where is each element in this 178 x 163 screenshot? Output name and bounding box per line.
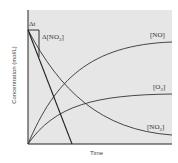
delta-no2-label: Δ[NO2] (42, 33, 64, 42)
x-axis-label: Time (90, 150, 103, 156)
o2-label: [O2] (153, 83, 165, 92)
no2-label: [NO2] (147, 123, 164, 132)
no2-text: [NO (147, 123, 159, 131)
no2-close: ] (162, 123, 164, 131)
y-axis-label: Concentration (mol/L) (11, 25, 17, 125)
plot-area (0, 0, 178, 163)
o2-close: ] (163, 83, 165, 91)
no-label: [NO] (150, 31, 165, 39)
delta-t-label: Δt (29, 20, 35, 28)
delta-no2-text: Δ[NO (42, 33, 59, 41)
delta-no2-close: ] (61, 33, 63, 41)
